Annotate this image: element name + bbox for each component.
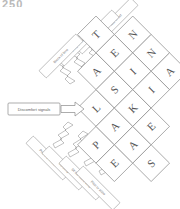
crossword-diagram: Not or not Bite Body of water Block of t… (0, 0, 180, 209)
diagram-canvas: 250 Not or not Bite (0, 0, 180, 209)
lightning-bolt-arrow-bottom-1 (53, 122, 73, 148)
discomfort-callout[interactable]: Discomfort signals (8, 102, 84, 116)
discomfort-callout-label: Discomfort signals (18, 107, 51, 112)
block-arrow-right-icon (61, 102, 84, 116)
